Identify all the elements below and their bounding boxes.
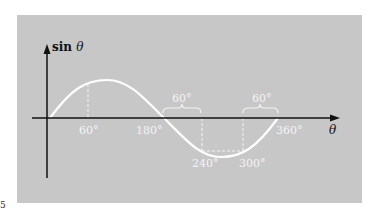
y-axis-label-text: sin xyxy=(52,40,72,54)
x-axis-arrow-icon xyxy=(330,115,340,122)
tick-label-240: 240° xyxy=(192,157,219,170)
brace-label-right: 60° xyxy=(252,92,272,105)
brace-right-icon xyxy=(243,104,278,113)
tick-label-300: 300° xyxy=(239,157,266,170)
brace-left-icon xyxy=(163,104,201,113)
y-axis-label: sin θ xyxy=(52,40,83,54)
tick-label-360: 360° xyxy=(276,124,303,137)
brace-label-left: 60° xyxy=(172,92,192,105)
margin-mark: 5 xyxy=(0,200,6,210)
y-axis-label-symbol: θ xyxy=(76,40,83,54)
y-axis-arrow-icon xyxy=(44,44,51,54)
x-axis-label: θ xyxy=(329,123,336,137)
sine-diagram xyxy=(0,0,375,219)
tick-label-60: 60° xyxy=(79,124,99,137)
tick-label-180: 180° xyxy=(136,124,163,137)
